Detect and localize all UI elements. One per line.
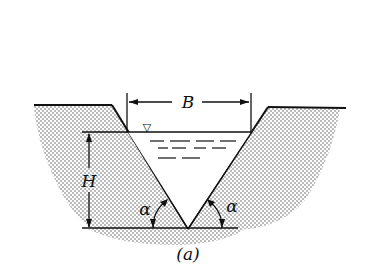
ground-line-right	[268, 107, 346, 108]
figure-caption: (a)	[176, 244, 199, 264]
width-label: B	[181, 92, 195, 112]
water-surface-marker-icon: ▽	[143, 121, 152, 134]
soil-bottom	[88, 229, 245, 245]
right-angle-label: α	[226, 196, 238, 216]
depth-label: H	[81, 171, 98, 191]
left-angle-label: α	[139, 199, 151, 219]
v-channel-diagram: ▽ B H α α (a)	[0, 0, 371, 266]
